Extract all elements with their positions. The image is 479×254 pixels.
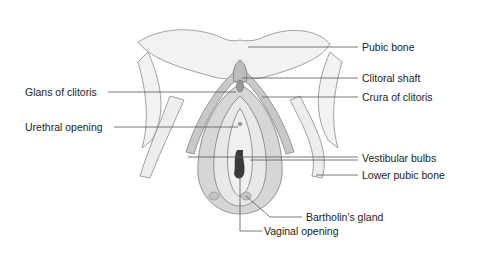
- label-vaginal-opening: Vaginal opening: [264, 225, 339, 237]
- label-vestibular-bulbs: Vestibular bulbs: [362, 152, 436, 164]
- label-lower-pubic-bone: Lower pubic bone: [362, 169, 445, 181]
- bartholins-gland-left: [209, 192, 219, 200]
- label-bartholins-gland: Bartholin's gland: [306, 211, 383, 223]
- label-crura-of-clitoris: Crura of clitoris: [362, 91, 433, 103]
- anatomy-figure: Pubic bone Clitoral shaft Glans of clito…: [0, 0, 479, 254]
- label-clitoral-shaft: Clitoral shaft: [362, 72, 420, 84]
- label-urethral-opening: Urethral opening: [25, 121, 103, 133]
- label-glans-of-clitoris: Glans of clitoris: [25, 86, 97, 98]
- label-pubic-bone: Pubic bone: [362, 41, 415, 53]
- urethral-opening-mark: [238, 122, 242, 126]
